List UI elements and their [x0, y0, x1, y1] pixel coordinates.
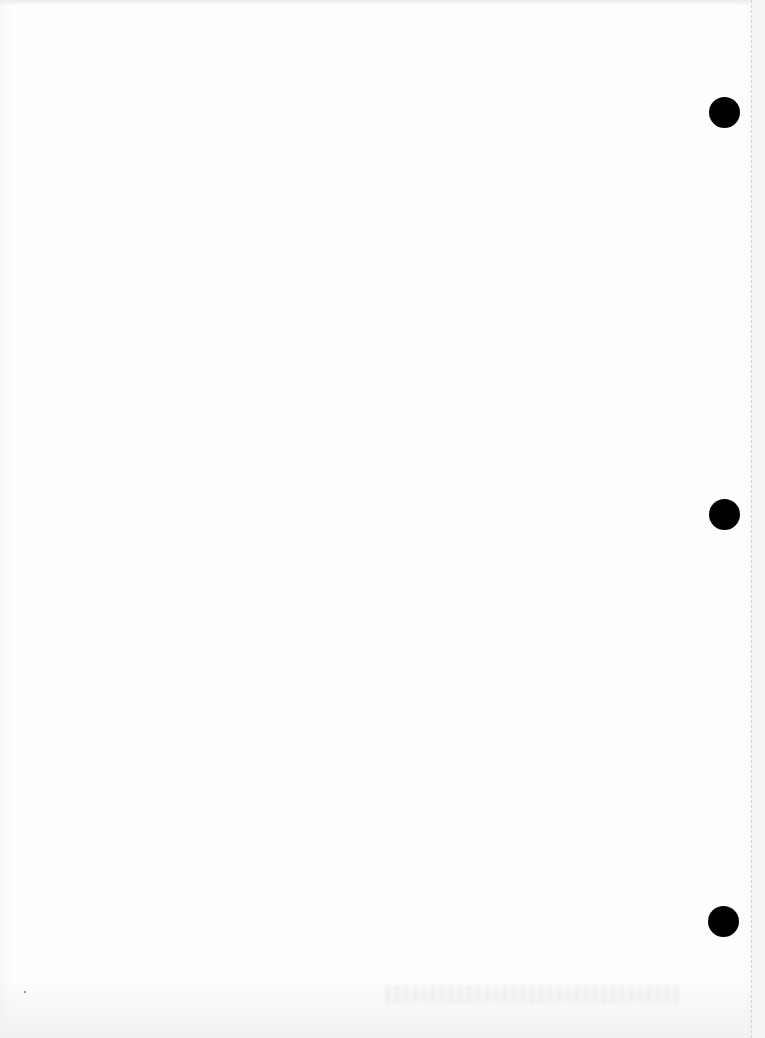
scan-speck — [24, 991, 26, 993]
punch-hole-bottom — [708, 906, 739, 937]
top-shadow — [0, 0, 765, 6]
perforation-line — [751, 0, 752, 1038]
bleed-through-text — [385, 985, 680, 1003]
page-edge-strip — [752, 0, 765, 1038]
punch-hole-middle — [709, 499, 740, 530]
punch-hole-top — [709, 97, 740, 128]
scanned-page — [0, 0, 765, 1038]
